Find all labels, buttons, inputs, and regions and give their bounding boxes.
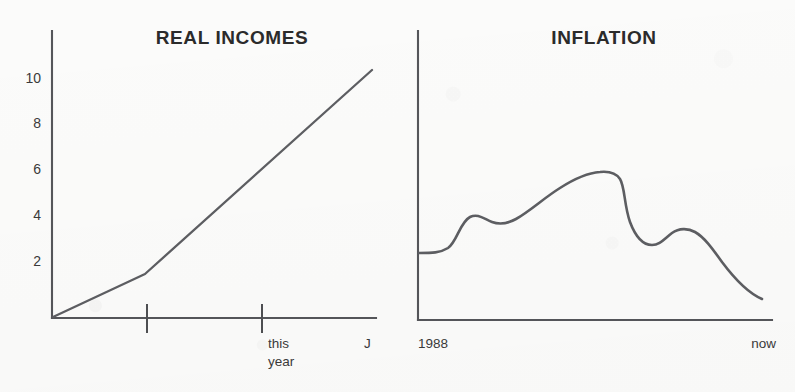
- left-series-real-incomes: [53, 70, 372, 317]
- left-y-tick-6: 6: [33, 161, 41, 177]
- right-x-end-label: now: [751, 336, 776, 351]
- left-x-end-label: J: [364, 336, 371, 351]
- left-y-tick-10: 10: [25, 70, 41, 86]
- right-series-inflation: [419, 172, 762, 299]
- left-chart-panel: REAL INCOMES 10 8 6 4 2 this year J: [25, 27, 376, 369]
- right-x-start-label: 1988: [418, 336, 448, 351]
- left-x-note-line1: this: [268, 336, 289, 351]
- right-chart-title: INFLATION: [551, 27, 656, 48]
- left-y-tick-2: 2: [33, 253, 41, 269]
- left-x-note-line2: year: [268, 354, 295, 369]
- left-y-tick-8: 8: [33, 115, 41, 131]
- left-y-tick-4: 4: [33, 207, 41, 223]
- right-chart-panel: INFLATION 1988 now: [418, 27, 776, 351]
- left-chart-title: REAL INCOMES: [156, 27, 309, 48]
- two-panel-chart-figure: REAL INCOMES 10 8 6 4 2 this year J INFL…: [0, 0, 795, 392]
